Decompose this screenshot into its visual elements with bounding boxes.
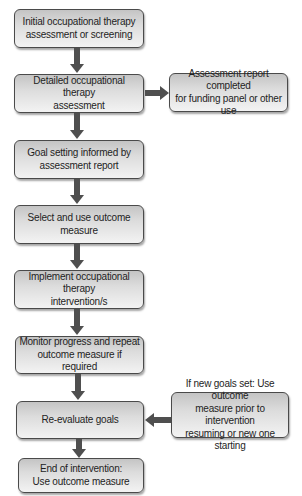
step-label: outcome measure if required [19,349,140,374]
side-box-label: resuming or new one starting [175,428,285,453]
step-label: Detailed occupational therapy [18,75,140,100]
step-select-outcome-measure: Select and use outcome measure [14,205,144,244]
step-end-of-intervention: End of intervention: Use outcome measure [18,458,144,493]
side-box-label: for funding panel or other use [173,93,284,118]
side-box-new-goals: If new goals set: Use outcome measure pr… [171,392,289,438]
arrow-left-icon [145,413,171,427]
side-box-label: Assessment report completed [173,68,284,93]
step-label: intervention/s [18,296,140,309]
side-box-assessment-report: Assessment report completed for funding … [169,73,288,112]
step-label: assessment or screening [23,29,136,42]
step-initial-assessment: Initial occupational therapy assessment … [14,9,144,48]
step-label: Re-evaluate goals [41,414,118,427]
step-label: Initial occupational therapy [23,16,136,29]
arrow-down-icon [70,48,84,74]
step-label: End of intervention: [33,463,130,476]
arrow-down-icon [70,309,84,336]
step-label: assessment report [27,160,131,173]
step-label: Implement occupational therapy [18,271,140,296]
arrow-down-icon [72,439,86,458]
step-implement-intervention: Implement occupational therapy intervent… [14,270,144,309]
step-monitor-progress: Monitor progress and repeat outcome meas… [15,336,144,374]
step-goal-setting: Goal setting informed by assessment repo… [14,140,144,179]
step-label: Use outcome measure [33,476,130,489]
step-re-evaluate-goals: Re-evaluate goals [16,401,144,439]
arrow-right-icon [145,86,169,100]
arrow-down-icon [71,374,85,401]
arrow-down-icon [70,113,84,140]
step-label: assessment [18,100,140,113]
step-label: Select and use outcome measure [18,212,140,237]
side-box-label: measure prior to intervention [175,403,285,428]
side-box-label: If new goals set: Use outcome [175,378,285,403]
step-label: Monitor progress and repeat [19,336,140,349]
arrow-down-icon [70,244,84,270]
step-detailed-assessment: Detailed occupational therapy assessment [14,74,144,113]
arrow-down-icon [70,179,84,205]
step-label: Goal setting informed by [27,147,131,160]
